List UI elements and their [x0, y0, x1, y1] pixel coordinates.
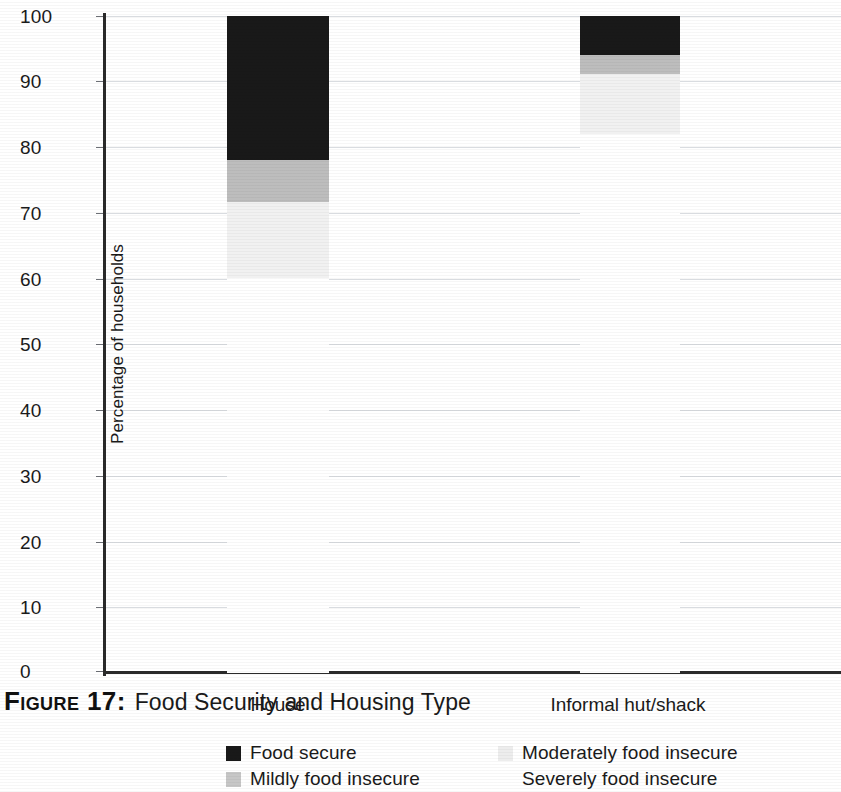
legend-swatch-icon [498, 772, 513, 787]
tick-30 [96, 476, 103, 477]
gridline-40 [104, 410, 841, 411]
legend-item-severely-food-insecure[interactable]: Severely food insecure [498, 768, 717, 790]
gridline-80 [104, 147, 841, 148]
bar-informal-hut-shack[interactable] [580, 16, 680, 673]
y-tick-label-100: 100 [20, 6, 52, 28]
bar-segment-moderately-food-insecure[interactable] [580, 74, 680, 134]
y-tick-label-0: 0 [20, 661, 31, 683]
bar-house[interactable] [227, 16, 329, 673]
tick-100 [96, 16, 103, 17]
tick-40 [96, 410, 103, 411]
chart-legend: Food secure Moderately food insecure Mil… [226, 742, 826, 792]
tick-60 [96, 279, 103, 280]
bar-segment-moderately-food-insecure[interactable] [227, 202, 329, 278]
legend-label: Moderately food insecure [522, 742, 738, 764]
tick-80 [96, 147, 103, 148]
figure-caption-title: Food Security and Housing Type [135, 689, 471, 715]
y-tick-label-50: 50 [20, 334, 42, 356]
figure-caption: Figure 17:Food Security and Housing Type [4, 686, 471, 717]
gridline-20 [104, 542, 841, 543]
tick-50 [96, 344, 103, 345]
y-axis-line [103, 13, 106, 676]
bar-segment-severely-food-insecure[interactable] [580, 134, 680, 673]
tick-0 [96, 671, 103, 672]
legend-item-moderately-food-insecure[interactable]: Moderately food insecure [498, 742, 738, 764]
legend-swatch-icon [498, 746, 513, 761]
bar-segment-mildly-food-insecure[interactable] [580, 55, 680, 74]
gridline-10 [104, 607, 841, 608]
gridline-60 [104, 279, 841, 280]
y-axis-title: Percentage of households [108, 84, 128, 604]
y-tick-label-20: 20 [20, 532, 42, 554]
figure-caption-number: Figure 17: [4, 686, 126, 716]
y-tick-label-60: 60 [20, 269, 42, 291]
y-tick-label-70: 70 [20, 203, 42, 225]
x-category-label-informal-hut-shack: Informal hut/shack [478, 694, 778, 716]
legend-label: Mildly food insecure [250, 768, 420, 790]
y-tick-label-80: 80 [20, 137, 42, 159]
tick-70 [96, 213, 103, 214]
legend-item-food-secure[interactable]: Food secure [226, 742, 357, 764]
tick-20 [96, 542, 103, 543]
gridline-100 [104, 16, 841, 17]
legend-label: Severely food insecure [522, 768, 717, 790]
gridline-70 [104, 213, 841, 214]
y-tick-label-90: 90 [20, 71, 42, 93]
legend-label: Food secure [250, 742, 357, 764]
y-tick-label-10: 10 [20, 597, 42, 619]
chart-plot-area: 100 90 80 70 60 50 40 30 20 10 0 Percent… [104, 16, 841, 673]
bar-segment-food-secure[interactable] [227, 16, 329, 160]
legend-swatch-icon [226, 746, 241, 761]
bar-segment-severely-food-insecure[interactable] [227, 278, 329, 673]
figure-container: 100 90 80 70 60 50 40 30 20 10 0 Percent… [0, 0, 841, 792]
y-tick-label-40: 40 [20, 400, 42, 422]
gridline-30 [104, 476, 841, 477]
y-tick-label-30: 30 [20, 466, 42, 488]
bar-segment-food-secure[interactable] [580, 16, 680, 55]
legend-swatch-icon [226, 772, 241, 787]
bar-segment-mildly-food-insecure[interactable] [227, 160, 329, 202]
x-axis-baseline [104, 671, 841, 674]
tick-10 [96, 607, 103, 608]
gridline-90 [104, 81, 841, 82]
tick-90 [96, 81, 103, 82]
legend-item-mildly-food-insecure[interactable]: Mildly food insecure [226, 768, 420, 790]
gridline-50 [104, 344, 841, 345]
